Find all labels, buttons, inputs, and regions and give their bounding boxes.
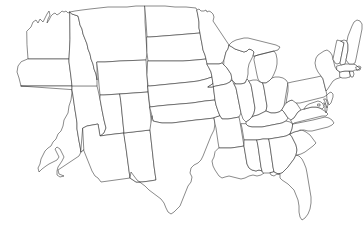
state-WY (97, 60, 148, 95)
state-OR (17, 59, 72, 86)
state-RI (350, 71, 354, 77)
state-ND (145, 6, 200, 37)
state-ME (346, 20, 362, 64)
state-WA (27, 11, 70, 59)
state-MA (337, 64, 361, 72)
state-NJ (327, 92, 333, 105)
usa-map-svg (0, 0, 363, 236)
state-CA (21, 86, 81, 177)
state-AR (214, 116, 244, 148)
state-DC (318, 104, 320, 106)
mid-atlantic-states (282, 20, 362, 124)
state-PA (286, 76, 327, 103)
usa-outline-map (0, 0, 363, 236)
state-CT (340, 71, 350, 78)
state-SD (147, 33, 206, 61)
southeast-states (241, 110, 334, 220)
state-CO (120, 92, 152, 133)
